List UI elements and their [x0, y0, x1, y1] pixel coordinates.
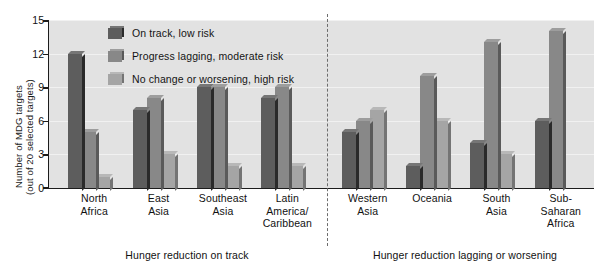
bar-latin-america-caribbean-series-1	[261, 98, 275, 188]
y-tick-mark-0	[43, 187, 49, 189]
y-tick-mark-15	[43, 20, 49, 22]
y-axis-tick-labels: 0 3 6 9 12 15	[22, 20, 44, 188]
gridline-6	[49, 121, 594, 122]
bar-western-asia-series-1	[342, 132, 356, 188]
y-tick-mark-12	[43, 54, 49, 56]
x-axis-category-labels: NorthAfricaEastAsiaSoutheastAsiaLatinAme…	[48, 192, 593, 238]
caption-hunger-lagging: Hunger reduction lagging or worsening	[340, 249, 590, 261]
bar-southeast-asia-series-1	[197, 87, 211, 188]
bar-sub-saharan-africa-series-1	[535, 121, 549, 188]
legend-label-worsening: No change or worsening, high risk	[132, 73, 294, 85]
bar-north-africa-series-1	[68, 54, 82, 188]
legend-label-on-track: On track, low risk	[132, 27, 214, 39]
x-label-latin-america-caribbean: LatinAmerica/Caribbean	[243, 192, 331, 230]
caption-hunger-on-track: Hunger reduction on track	[62, 249, 312, 261]
bar-oceania-series-1	[406, 166, 420, 188]
gridline-15	[49, 20, 594, 21]
legend-item-lagging: Progress lagging, moderate risk	[108, 45, 368, 66]
x-label-sub-saharan-africa: Sub-SaharanAfrica	[517, 192, 605, 230]
legend-item-on-track: On track, low risk	[108, 22, 368, 43]
bar-south-asia-series-1	[470, 143, 484, 188]
y-tick-mark-9	[43, 87, 49, 89]
legend-item-worsening: No change or worsening, high risk	[108, 68, 368, 89]
mdg-targets-bar-chart: Number of MDG targets (out of 20 selecte…	[0, 0, 611, 275]
legend-swatch-lagging	[108, 49, 124, 62]
legend: On track, low risk Progress lagging, mod…	[108, 22, 368, 91]
y-tick-mark-6	[43, 121, 49, 123]
legend-label-lagging: Progress lagging, moderate risk	[132, 50, 283, 62]
legend-swatch-worsening	[108, 72, 124, 85]
legend-swatch-on-track	[108, 26, 124, 39]
bar-east-asia-series-1	[133, 110, 147, 188]
y-tick-mark-3	[43, 154, 49, 156]
